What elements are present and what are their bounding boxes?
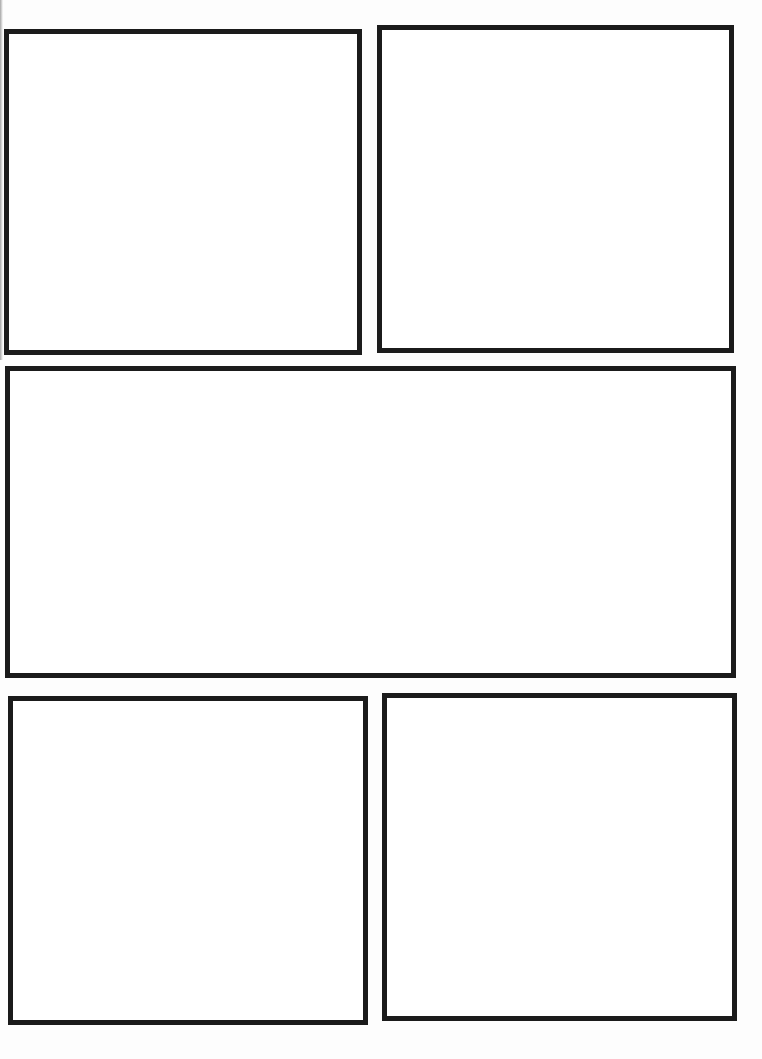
panel-middle-wide: [5, 366, 736, 678]
page-edge-shadow: [0, 0, 3, 360]
panel-top-left: [4, 29, 362, 355]
panel-bottom-left: [8, 696, 368, 1025]
comic-page: [0, 0, 762, 1059]
panel-bottom-right: [382, 693, 737, 1021]
panel-top-right: [377, 25, 734, 353]
